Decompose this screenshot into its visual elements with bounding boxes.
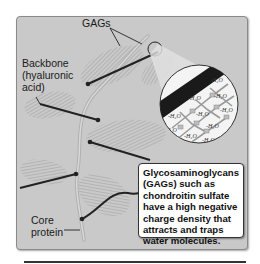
label-backbone: Backbone (hyaluronic acid) [22, 57, 73, 93]
svg-text:-H₂O: -H₂O [184, 133, 197, 139]
svg-text:-H₂O: -H₂O [206, 123, 219, 129]
svg-text:-H₂O: -H₂O [220, 107, 233, 113]
svg-text:-H₂O: -H₂O [188, 95, 201, 101]
svg-text:-H₂O: -H₂O [210, 77, 223, 83]
svg-text:-H₂O: -H₂O [168, 113, 181, 119]
divider-rule [24, 261, 246, 263]
svg-text:-H₂O: -H₂O [214, 93, 227, 99]
label-gags: GAGs [82, 17, 111, 29]
label-core-protein: Core protein [31, 214, 63, 238]
gag-explanation-callout: Glycosaminoglycans (GAGs) such as chondr… [138, 163, 244, 238]
svg-text:-H₂O: -H₂O [164, 127, 177, 133]
svg-text:-H₂O: -H₂O [196, 111, 209, 117]
